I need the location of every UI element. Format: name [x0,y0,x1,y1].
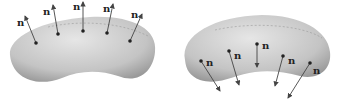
normal-label: n [73,1,81,12]
normal-label: n [43,6,51,17]
surface-point [308,61,312,65]
normal-vectors-diagram: nnnnn nnnnn [0,0,344,102]
surface-point [128,39,132,43]
surface-point [281,54,285,58]
surface-point [34,41,38,45]
normal-label: n [17,17,25,28]
surface-point [81,29,85,33]
surface-point [56,32,60,36]
surface-point [199,59,203,63]
normal-label: n [234,50,242,61]
normal-label: n [206,57,214,68]
normal-label: n [103,3,111,14]
surface-point [255,42,259,46]
right-surface-inward-normals: nnnnn [185,15,331,98]
normal-label: n [131,9,139,20]
normal-label: n [262,40,270,51]
left-surface-outward-normals: nnnnn [10,1,155,82]
surface-point [227,49,231,53]
normal-label: n [313,65,321,76]
surface-point [105,31,109,35]
normal-label: n [288,55,296,66]
